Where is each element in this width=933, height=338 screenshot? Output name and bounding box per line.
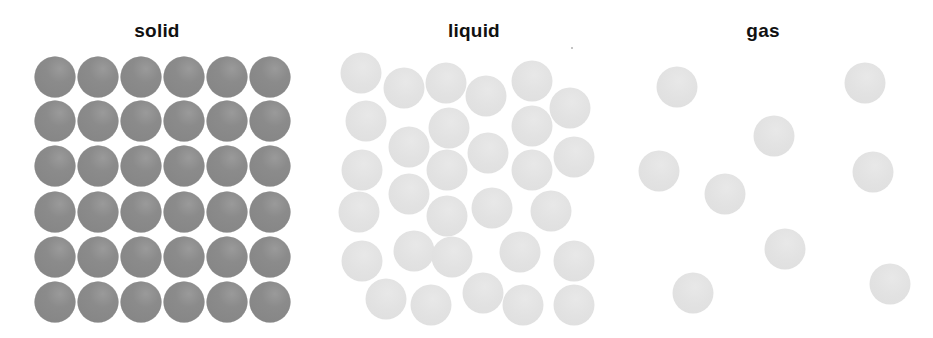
gas-particle	[657, 67, 698, 108]
gas-particle	[639, 151, 680, 192]
gas-panel: gas	[0, 0, 933, 338]
gas-particle	[765, 229, 806, 270]
gas-particle	[754, 116, 795, 157]
speck	[571, 47, 573, 49]
gas-particle	[705, 174, 746, 215]
gas-particle	[870, 264, 911, 305]
gas-particle	[845, 63, 886, 104]
gas-particle	[853, 152, 894, 193]
gas-title: gas	[746, 20, 779, 42]
gas-particle	[673, 273, 714, 314]
